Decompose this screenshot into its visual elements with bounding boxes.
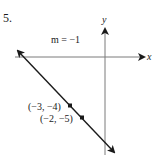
x-axis-label: x	[146, 51, 152, 62]
line-graph-figure: 5. x y m = −1 (−3, −4) (−2, −5)	[0, 0, 155, 160]
slope-label: m = −1	[51, 34, 80, 45]
point-marker-2	[80, 116, 84, 120]
problem-number: 5.	[3, 11, 12, 25]
point-marker-1	[68, 104, 72, 108]
y-axis-label: y	[101, 14, 107, 25]
point-label-1: (−3, −4)	[28, 101, 61, 113]
point-label-2: (−2, −5)	[40, 113, 73, 125]
